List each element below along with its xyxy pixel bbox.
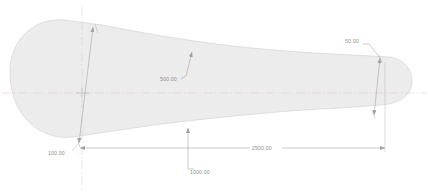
- dim-2500-label: 2500.00: [252, 145, 272, 151]
- dim-50-label: 50.00: [345, 38, 359, 44]
- dim-1000-label: 1000.00: [190, 169, 210, 175]
- cad-drawing-viewport: 100.00 500.00 1000.00 2500.00: [0, 0, 428, 196]
- dim-100-leader: [72, 143, 79, 151]
- dim-500-label: 500.00: [160, 76, 177, 82]
- dimension-1000: 1000.00: [188, 128, 210, 175]
- drawing-canvas: 100.00 500.00 1000.00 2500.00: [0, 0, 428, 196]
- dim-100-label: 100.00: [48, 150, 65, 156]
